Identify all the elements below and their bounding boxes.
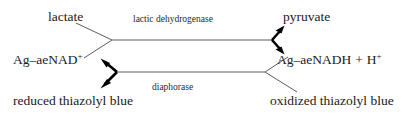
top-arrow-left-vertex	[76, 23, 112, 58]
top-arrow-head-cofactor	[272, 40, 285, 55]
bottom-arrow-head-reduced-dye	[101, 72, 118, 89]
reaction-arrows	[0, 0, 403, 119]
reaction-diagram: lactate lactic dehydrogenase pyruvate Ag…	[0, 0, 403, 119]
top-arrow-head-pyruvate	[272, 26, 285, 41]
bottom-arrow-head-cofactor	[101, 59, 118, 73]
bottom-arrow-right-vertex	[265, 57, 297, 92]
